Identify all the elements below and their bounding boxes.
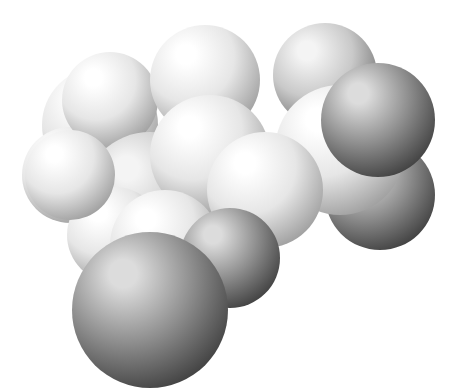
bottom-front-atom [72, 232, 228, 388]
left-front-atom [25, 130, 115, 220]
space-filling-model [0, 0, 456, 389]
right-front-atom [321, 63, 435, 177]
